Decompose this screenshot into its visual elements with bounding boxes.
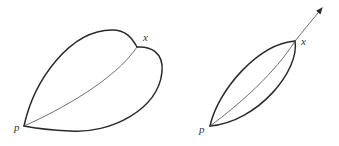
right-label-x: x [300, 35, 306, 47]
right-interior-curve [210, 41, 295, 126]
left-label-p: p [13, 121, 20, 133]
left-label-x: x [142, 31, 148, 43]
left-upper-boundary-curve [24, 30, 137, 126]
left-interior-curve [24, 47, 137, 126]
left-figure: x p [13, 30, 162, 133]
right-figure: x p [198, 8, 322, 135]
left-lower-boundary-curve [24, 47, 162, 131]
right-tangent-arrow [295, 8, 322, 41]
diagram-canvas: x p x p [0, 0, 339, 146]
right-lower-boundary-curve [210, 41, 295, 126]
right-upper-boundary-curve [210, 41, 295, 126]
right-label-p: p [198, 123, 205, 135]
